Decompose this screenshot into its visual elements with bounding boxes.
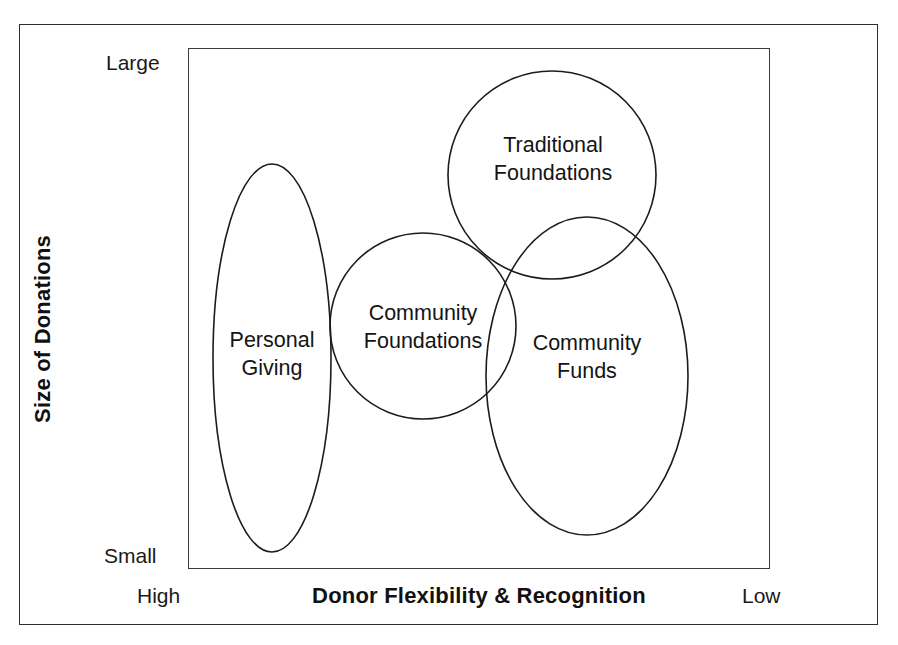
y-axis-title: Size of Donations: [30, 179, 56, 479]
x-axis-tick-left: High: [137, 585, 180, 606]
y-axis-tick-top: Large: [106, 52, 160, 73]
figure-canvas: Large Small High Low Size of Donations D…: [0, 0, 898, 645]
region-label-community-funds: Community Funds: [504, 330, 670, 385]
region-label-personal-giving: Personal Giving: [202, 327, 342, 382]
region-label-traditional-foundations: Traditional Foundations: [455, 132, 651, 187]
region-label-community-foundations: Community Foundations: [330, 300, 516, 355]
x-axis-title: Donor Flexibility & Recognition: [188, 583, 770, 609]
y-axis-tick-bottom: Small: [104, 545, 157, 566]
